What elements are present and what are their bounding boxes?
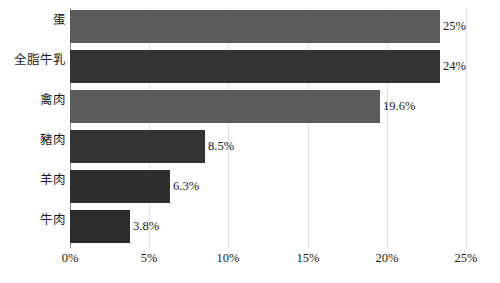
x-axis-tick: 25%: [455, 252, 478, 265]
y-axis-label: 禽肉: [2, 94, 66, 107]
bar-row: 8.5%: [70, 130, 466, 163]
x-axis-tick: 5%: [141, 252, 158, 265]
bar-row: 3.8%: [70, 210, 466, 243]
bar-pork: [70, 130, 205, 163]
bar-row: 19.6%: [70, 90, 466, 123]
bar-poultry: [70, 90, 380, 123]
x-axis-tick: 15%: [297, 252, 320, 265]
x-axis-labels: 0% 5% 10% 15% 20% 25%: [70, 252, 466, 272]
y-axis-label: 牛肉: [2, 214, 66, 227]
bar-value-label: 8.5%: [208, 140, 234, 153]
bar-value-label: 19.6%: [383, 100, 415, 113]
y-axis-label: 全脂牛乳: [2, 54, 66, 67]
bar-value-label: 25%: [443, 20, 466, 33]
bar-beef: [70, 210, 130, 243]
gridline-25: [466, 8, 467, 248]
bar-egg: [70, 10, 440, 43]
y-axis-label: 羊肉: [2, 174, 66, 187]
x-axis-tick: 10%: [217, 252, 240, 265]
x-axis-tick: 0%: [62, 252, 79, 265]
bar-whole-milk: [70, 50, 440, 83]
bar-value-label: 3.8%: [133, 220, 159, 233]
bar-value-label: 24%: [443, 60, 466, 73]
y-axis-label: 蛋: [2, 14, 66, 27]
bar-row: 24%: [70, 50, 466, 83]
plot-area: 25% 24% 19.6% 8.5% 6.3% 3.8%: [70, 8, 466, 248]
bar-row: 6.3%: [70, 170, 466, 203]
y-axis-labels: 蛋 全脂牛乳 禽肉 豬肉 羊肉 牛肉: [0, 8, 66, 248]
bar-row: 25%: [70, 10, 466, 43]
bar-lamb: [70, 170, 170, 203]
y-axis-label: 豬肉: [2, 134, 66, 147]
bar-value-label: 6.3%: [173, 180, 199, 193]
x-axis-tick: 20%: [376, 252, 399, 265]
bar-chart: 蛋 全脂牛乳 禽肉 豬肉 羊肉 牛肉 25% 24% 19.6% 8.5%: [0, 0, 500, 283]
